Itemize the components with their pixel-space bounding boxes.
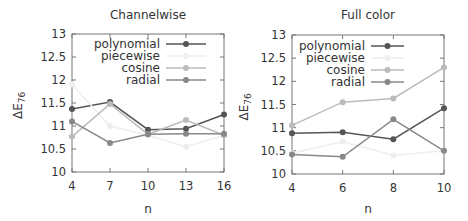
y-tick-label: 13 — [271, 28, 286, 42]
data-point — [107, 140, 113, 146]
x-tick-label: 7 — [106, 179, 113, 193]
series-piecewise — [69, 82, 227, 150]
data-point — [69, 118, 75, 124]
data-point — [69, 106, 75, 112]
chart-channelwise: Channelwise1010.51111.51212.51347101316n… — [11, 8, 231, 216]
x-tick-label: 4 — [288, 181, 295, 195]
data-point — [340, 154, 346, 160]
data-point — [183, 131, 189, 137]
x-tick-label: 13 — [179, 179, 194, 193]
data-point — [145, 131, 151, 137]
data-point — [69, 82, 75, 88]
y-tick-label: 10 — [51, 165, 66, 179]
x-axis-label: n — [364, 202, 372, 216]
x-tick-label: 16 — [217, 179, 232, 193]
data-point — [441, 105, 447, 111]
data-point — [390, 116, 396, 122]
data-point — [340, 129, 346, 135]
data-point — [390, 152, 396, 158]
legend-label-radial: radial — [331, 75, 365, 89]
y-tick-label: 10.5 — [260, 144, 286, 158]
data-point — [107, 123, 113, 129]
data-point — [183, 117, 189, 123]
y-tick-label: 12.5 — [260, 51, 286, 65]
x-tick-label: 4 — [68, 179, 75, 193]
data-point — [183, 144, 189, 150]
y-tick-label: 10.5 — [40, 142, 66, 156]
legend: polynomialpiecewisecosineradial — [299, 39, 404, 89]
y-tick-label: 12 — [51, 73, 66, 87]
data-point — [441, 148, 447, 154]
data-point — [340, 99, 346, 105]
data-point — [340, 139, 346, 145]
legend-label-radial: radial — [126, 73, 160, 87]
y-tick-label: 10 — [271, 167, 286, 181]
legend: polynomialpiecewisecosineradial — [94, 37, 206, 87]
y-tick-label: 11 — [51, 119, 66, 133]
data-point — [69, 134, 75, 140]
y-tick-label: 11 — [271, 121, 286, 135]
data-point — [221, 112, 227, 118]
figure: Channelwise1010.51111.51212.51347101316n… — [0, 0, 468, 221]
y-tick-label: 13 — [51, 27, 66, 41]
series-polynomial — [289, 105, 447, 142]
y-tick-label: 12 — [271, 74, 286, 88]
data-point — [289, 152, 295, 158]
x-tick-label: 6 — [339, 181, 346, 195]
data-point — [107, 101, 113, 107]
chart-full-color: Full color1010.51111.51212.51346810nΔE76… — [237, 8, 451, 216]
y-tick-label: 11.5 — [260, 98, 286, 112]
data-point — [289, 122, 295, 128]
x-tick-label: 10 — [437, 181, 452, 195]
data-point — [221, 131, 227, 137]
chart-title: Full color — [341, 8, 395, 22]
y-tick-label: 11.5 — [40, 96, 66, 110]
x-tick-label: 8 — [390, 181, 397, 195]
y-axis-label: ΔE76 — [237, 93, 253, 121]
chart-title: Channelwise — [110, 8, 186, 22]
y-axis-label: ΔE76 — [11, 91, 27, 119]
series-cosine — [289, 64, 447, 128]
data-point — [390, 95, 396, 101]
y-tick-label: 12.5 — [40, 50, 66, 64]
x-axis-label: n — [144, 202, 152, 216]
data-point — [390, 136, 396, 142]
data-point — [441, 64, 447, 70]
x-tick-label: 10 — [141, 179, 156, 193]
data-point — [289, 130, 295, 136]
